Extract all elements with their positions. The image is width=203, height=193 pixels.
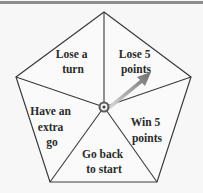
spinner-diagram: Lose a turn Lose 5 points Win 5 points G…: [0, 0, 203, 193]
spinner-hub-icon: [99, 102, 110, 113]
